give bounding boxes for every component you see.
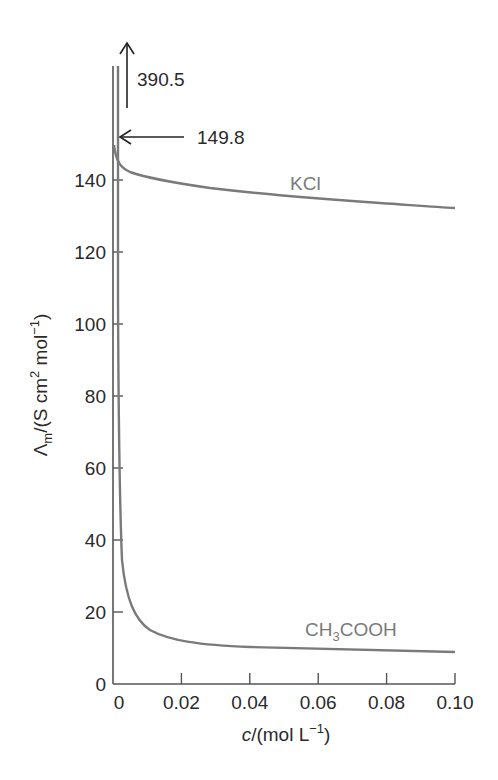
x-tick-label: 0.10	[437, 692, 474, 713]
y-tick-label: 40	[85, 530, 106, 551]
kcl-label: KCl	[290, 173, 321, 194]
y-tick-label: 20	[85, 602, 106, 623]
y-tick-label: 120	[74, 242, 106, 263]
y-tick-label: 100	[74, 314, 106, 335]
x-tick-labels: 0 0.02 0.04 0.06 0.08 0.10	[114, 692, 474, 713]
annotation-149-8: 149.8	[197, 127, 245, 148]
y-tick-label: 140	[74, 170, 106, 191]
left-arrow-icon	[120, 130, 184, 144]
x-axis-title: c/(mol L−1)	[242, 721, 331, 745]
up-arrow-icon	[120, 43, 134, 108]
kcl-curve	[114, 145, 455, 208]
x-tick-label: 0.08	[368, 692, 405, 713]
x-tick-label: 0.04	[231, 692, 268, 713]
y-tick-label: 60	[85, 458, 106, 479]
y-tick-label: 80	[85, 386, 106, 407]
x-tick-label: 0.06	[300, 692, 337, 713]
ch3cooh-curve	[118, 66, 455, 652]
x-ticks	[181, 673, 455, 684]
x-tick-label: 0	[114, 692, 125, 713]
axes	[113, 66, 455, 684]
y-tick-label: 0	[95, 674, 106, 695]
ch3cooh-label: CH3COOH	[305, 619, 397, 644]
conductivity-chart: 0 20 40 60 80 100 120 140 0 0.02 0.04 0.…	[0, 0, 498, 780]
annotation-390-5: 390.5	[137, 69, 185, 90]
x-tick-label: 0.02	[163, 692, 200, 713]
y-axis-title: Λm/(S cm2 mol−1)	[27, 314, 55, 457]
y-tick-labels: 0 20 40 60 80 100 120 140	[74, 170, 106, 695]
